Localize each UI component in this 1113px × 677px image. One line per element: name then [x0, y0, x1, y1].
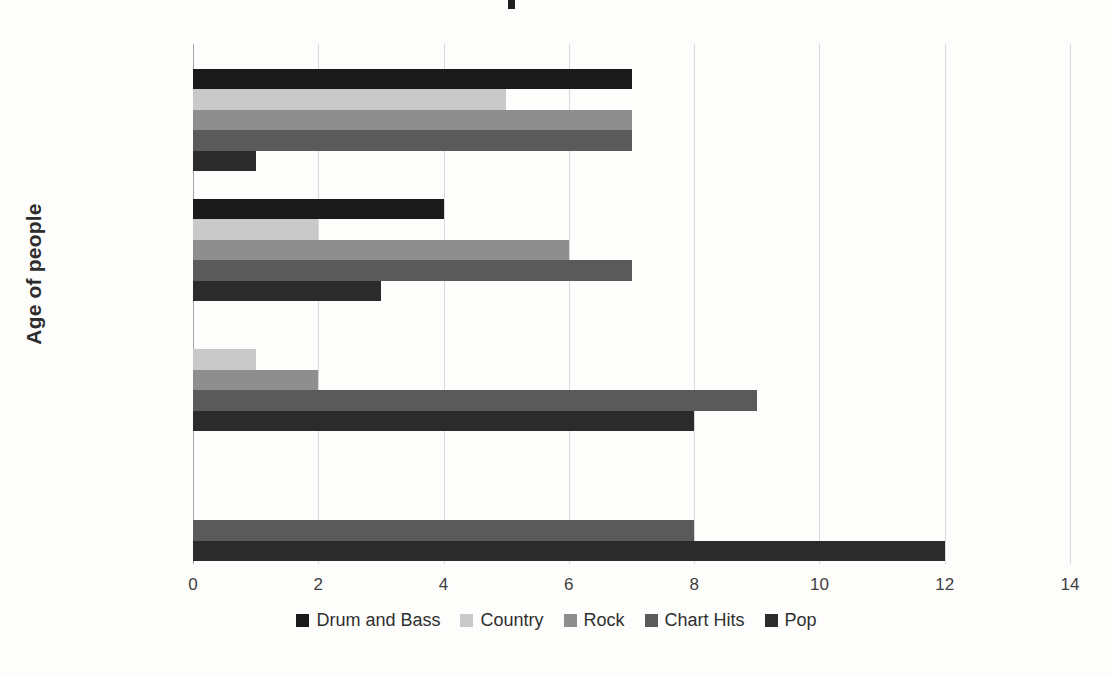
- x-tick-4: 4: [414, 575, 474, 595]
- x-tick-14: 14: [1040, 575, 1100, 595]
- bar-chart-hits[interactable]: [193, 390, 757, 411]
- bar-row: [193, 349, 1070, 370]
- bar-row: [193, 390, 1070, 411]
- bar-drum-and-bass[interactable]: [193, 69, 632, 90]
- bar-group: [193, 69, 1070, 172]
- bar-group: [193, 459, 1070, 562]
- bar-chart-hits[interactable]: [193, 520, 694, 541]
- bar-rock[interactable]: [193, 370, 318, 391]
- x-tick-2: 2: [288, 575, 348, 595]
- bar-row: [193, 89, 1070, 110]
- bar-row: [193, 370, 1070, 391]
- bar-row: [193, 151, 1070, 172]
- bar-row: [193, 199, 1070, 220]
- legend-swatch-icon: [296, 614, 309, 627]
- bar-country[interactable]: [193, 219, 318, 240]
- bar-pop[interactable]: [193, 281, 381, 302]
- bar-group: [193, 199, 1070, 302]
- legend-item-pop[interactable]: Pop: [765, 611, 817, 629]
- bar-row: [193, 541, 1070, 562]
- bar-rock[interactable]: [193, 110, 632, 131]
- legend-swatch-icon: [645, 614, 658, 627]
- x-tick-0: 0: [163, 575, 223, 595]
- bar-row: [193, 411, 1070, 432]
- bar-rock[interactable]: [193, 240, 569, 261]
- legend-item-rock[interactable]: Rock: [564, 611, 625, 629]
- bar-country[interactable]: [193, 349, 256, 370]
- bar-pop[interactable]: [193, 151, 256, 172]
- legend-label: Pop: [785, 611, 817, 629]
- legend-label: Country: [480, 611, 543, 629]
- bar-group: [193, 329, 1070, 432]
- bar-row: [193, 130, 1070, 151]
- legend-item-chart-hits[interactable]: Chart Hits: [645, 611, 745, 629]
- bar-chart-hits[interactable]: [193, 130, 632, 151]
- gridline-14: [1070, 44, 1071, 564]
- legend-swatch-icon: [460, 614, 473, 627]
- bar-row: [193, 479, 1070, 500]
- bar-row: [193, 110, 1070, 131]
- x-tick-8: 8: [664, 575, 724, 595]
- cropped-title-fragment: [508, 0, 515, 9]
- legend-label: Drum and Bass: [316, 611, 440, 629]
- x-tick-12: 12: [915, 575, 975, 595]
- legend-item-country[interactable]: Country: [460, 611, 543, 629]
- bar-row: [193, 459, 1070, 480]
- legend-swatch-icon: [765, 614, 778, 627]
- legend-label: Chart Hits: [665, 611, 745, 629]
- bar-row: [193, 260, 1070, 281]
- x-tick-10: 10: [789, 575, 849, 595]
- bar-pop[interactable]: [193, 541, 945, 562]
- bar-row: [193, 329, 1070, 350]
- legend-swatch-icon: [564, 614, 577, 627]
- bar-chart: Age of people 02468101214 age 10-13age 1…: [0, 0, 1113, 677]
- bar-row: [193, 69, 1070, 90]
- bar-row: [193, 520, 1070, 541]
- bar-pop[interactable]: [193, 411, 694, 432]
- x-tick-6: 6: [539, 575, 599, 595]
- bar-chart-hits[interactable]: [193, 260, 632, 281]
- bar-row: [193, 240, 1070, 261]
- legend-label: Rock: [584, 611, 625, 629]
- bar-country[interactable]: [193, 89, 506, 110]
- plot-area: [193, 44, 1070, 564]
- y-axis-title: Age of people: [22, 184, 46, 364]
- bar-row: [193, 500, 1070, 521]
- bar-row: [193, 219, 1070, 240]
- bar-drum-and-bass[interactable]: [193, 199, 444, 220]
- chart-legend: Drum and BassCountryRockChart HitsPop: [0, 611, 1113, 629]
- bar-row: [193, 281, 1070, 302]
- legend-item-drum-and-bass[interactable]: Drum and Bass: [296, 611, 440, 629]
